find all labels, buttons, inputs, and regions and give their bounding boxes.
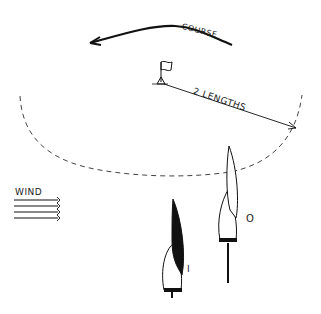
boat-inside <box>163 199 184 298</box>
sailing-rules-diagram <box>0 0 321 314</box>
boat-inside-label: I <box>187 264 190 274</box>
two-lengths-zone-circle <box>20 95 302 176</box>
boat-outside <box>219 146 238 283</box>
wind-label: WIND <box>15 187 42 197</box>
wind-indicator <box>14 197 60 221</box>
boat-outside-label: O <box>246 213 254 224</box>
mark-flag-icon <box>152 61 172 84</box>
